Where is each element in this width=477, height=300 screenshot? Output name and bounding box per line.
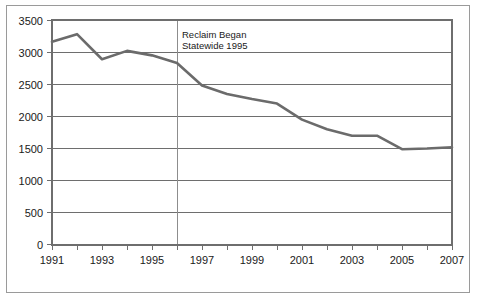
ytick-label-3500: 3500 bbox=[19, 15, 43, 27]
ytick-label-0: 0 bbox=[37, 239, 43, 251]
chart-figure: 3500 3000 2500 2000 1500 1000 500 0 bbox=[0, 0, 477, 300]
reclaim-annotation-line-2: Statewide 1995 bbox=[182, 40, 248, 51]
y-axis-ticks bbox=[47, 21, 52, 245]
ytick-label-1500: 1500 bbox=[19, 143, 43, 155]
xtick-label-2005: 2005 bbox=[390, 254, 414, 266]
x-axis-ticks bbox=[52, 245, 452, 250]
xtick-label-1999: 1999 bbox=[240, 254, 264, 266]
xtick-label-1997: 1997 bbox=[190, 254, 214, 266]
plot-area-border bbox=[52, 20, 452, 245]
gridlines bbox=[52, 21, 452, 213]
data-series-line bbox=[52, 34, 452, 149]
ytick-label-500: 500 bbox=[25, 207, 43, 219]
y-axis-labels: 3500 3000 2500 2000 1500 1000 500 0 bbox=[19, 15, 43, 251]
line-chart: 3500 3000 2500 2000 1500 1000 500 0 bbox=[0, 0, 477, 300]
xtick-label-2001: 2001 bbox=[290, 254, 314, 266]
xtick-label-1993: 1993 bbox=[90, 254, 114, 266]
xtick-label-2007: 2007 bbox=[440, 254, 464, 266]
reclaim-annotation-line-1: Reclaim Began bbox=[182, 29, 246, 40]
x-axis-labels: 1991 1993 1995 1997 1999 2001 2003 2005 … bbox=[40, 254, 464, 266]
xtick-label-2003: 2003 bbox=[340, 254, 364, 266]
ytick-label-2000: 2000 bbox=[19, 111, 43, 123]
ytick-label-3000: 3000 bbox=[19, 47, 43, 59]
xtick-label-1991: 1991 bbox=[40, 254, 64, 266]
ytick-label-1000: 1000 bbox=[19, 175, 43, 187]
xtick-label-1995: 1995 bbox=[140, 254, 164, 266]
ytick-label-2500: 2500 bbox=[19, 79, 43, 91]
